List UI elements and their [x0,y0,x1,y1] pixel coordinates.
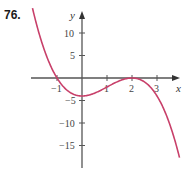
y-tick-label: 10 [64,28,74,39]
x-axis: −1 1 2 3 x [31,75,181,94]
x-tick-label: 2 [129,83,134,94]
x-axis-arrow-icon [172,75,180,81]
y-axis-label: y [69,9,75,21]
function-graph: −1 1 2 3 x 10 5 −5 −10 −15 y [0,0,196,177]
x-axis-label: x [175,82,181,94]
y-tick-label: −10 [59,118,75,129]
y-tick-label: −5 [65,95,76,106]
y-tick-label: 5 [70,50,75,61]
y-axis: 10 5 −5 −10 −15 y [59,9,85,168]
x-tick-label: −1 [51,83,62,94]
y-axis-arrow-icon [79,11,85,19]
y-tick-label: −15 [59,140,75,151]
